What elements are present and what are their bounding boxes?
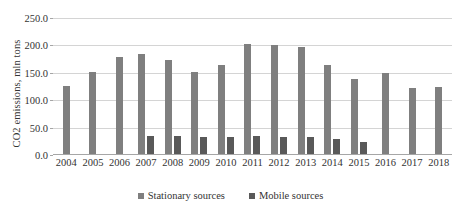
x-tick-label: 2018 [428, 157, 449, 168]
plot-area: 0.050.0100.0150.0200.0250.0 [53, 18, 452, 155]
bar [280, 137, 287, 155]
bar [63, 86, 70, 155]
x-axis-baseline [53, 154, 452, 155]
bar [253, 136, 260, 155]
bar [218, 65, 225, 155]
bar [244, 44, 251, 155]
legend-label: Stationary sources [148, 190, 225, 201]
bar [382, 73, 389, 155]
bar [409, 88, 416, 155]
legend-swatch-icon [249, 193, 255, 199]
bar [165, 60, 172, 155]
co2-emissions-bar-chart: CO2 emissions, mln tons 0.050.0100.0150.… [0, 0, 461, 221]
x-axis-labels: 2004200520062007200820092010201120122013… [53, 157, 452, 172]
bar-group [266, 18, 293, 155]
bar [174, 136, 181, 155]
bar [191, 72, 198, 155]
bar-group [80, 18, 107, 155]
legend-item[interactable]: Stationary sources [138, 190, 225, 201]
y-tick-label: 100.0 [24, 95, 48, 106]
x-tick-label: 2005 [82, 157, 103, 168]
bar-group [239, 18, 266, 155]
x-tick-label: 2011 [242, 157, 263, 168]
legend-item[interactable]: Mobile sources [249, 190, 323, 201]
legend-label: Mobile sources [259, 190, 323, 201]
x-tick-label: 2015 [348, 157, 369, 168]
bar-group [106, 18, 133, 155]
bar [138, 54, 145, 155]
bar [116, 57, 123, 155]
bar [227, 137, 234, 155]
bar-group [292, 18, 319, 155]
chart-legend: Stationary sourcesMobile sources [0, 190, 461, 201]
bar [298, 47, 305, 156]
bar [324, 65, 331, 155]
bar-group [186, 18, 213, 155]
bar-group [213, 18, 240, 155]
bars-layer [53, 18, 452, 155]
y-tick-mark [50, 155, 53, 156]
bar [89, 72, 96, 155]
x-tick-label: 2016 [375, 157, 396, 168]
x-tick-label: 2014 [322, 157, 343, 168]
bar-group [319, 18, 346, 155]
x-tick-label: 2009 [189, 157, 210, 168]
x-tick-label: 2007 [136, 157, 157, 168]
x-tick-label: 2008 [162, 157, 183, 168]
y-tick-label: 150.0 [24, 67, 48, 78]
x-tick-label: 2012 [269, 157, 290, 168]
bar [333, 139, 340, 155]
y-tick-label: 0.0 [35, 150, 48, 161]
bar [435, 87, 442, 156]
legend-swatch-icon [138, 193, 144, 199]
x-tick-label: 2013 [295, 157, 316, 168]
x-tick-label: 2010 [215, 157, 236, 168]
y-tick-label: 250.0 [24, 13, 48, 24]
bar-group [346, 18, 373, 155]
bar-group [425, 18, 452, 155]
bar-group [159, 18, 186, 155]
bar [147, 136, 154, 155]
bar [200, 137, 207, 155]
bar-group [399, 18, 426, 155]
x-tick-label: 2004 [56, 157, 77, 168]
bar [307, 137, 314, 155]
bar [271, 45, 278, 155]
y-axis-title: CO2 emissions, mln tons [11, 19, 22, 169]
bar-group [133, 18, 160, 155]
x-tick-label: 2017 [402, 157, 423, 168]
y-tick-label: 200.0 [24, 40, 48, 51]
bar [351, 79, 358, 155]
bar-group [53, 18, 80, 155]
y-tick-label: 50.0 [30, 122, 48, 133]
bar-group [372, 18, 399, 155]
x-tick-label: 2006 [109, 157, 130, 168]
